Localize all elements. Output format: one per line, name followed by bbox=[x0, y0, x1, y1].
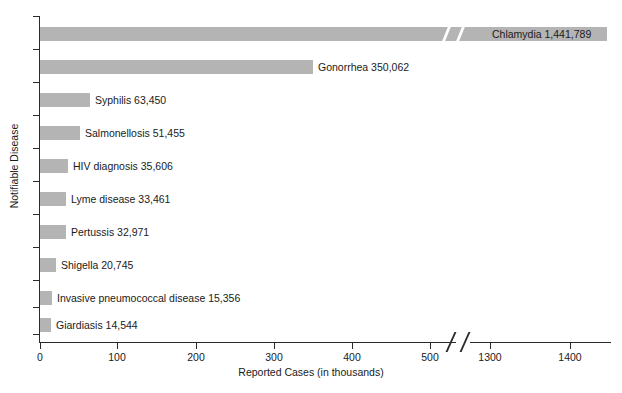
x-axis-line-right-segment bbox=[470, 342, 611, 343]
x-axis-tick bbox=[117, 343, 118, 349]
bar bbox=[40, 192, 66, 206]
bar bbox=[40, 93, 90, 107]
y-axis-tick bbox=[33, 16, 39, 17]
y-axis-tick bbox=[33, 247, 39, 248]
x-axis-tick-label: 100 bbox=[87, 351, 147, 363]
y-axis-tick bbox=[33, 280, 39, 281]
x-axis-tick-label: 1300 bbox=[460, 351, 520, 363]
x-axis-tick-label: 200 bbox=[166, 351, 226, 363]
y-axis-tick bbox=[33, 181, 39, 182]
x-axis-tick bbox=[274, 343, 275, 349]
bar bbox=[40, 291, 52, 305]
y-axis-tick bbox=[33, 82, 39, 83]
x-axis-break-slash-2 bbox=[460, 332, 471, 352]
bar-value-label: Syphilis 63,450 bbox=[95, 93, 166, 107]
y-axis-tick bbox=[33, 214, 39, 215]
x-axis-tick-label: 400 bbox=[322, 351, 382, 363]
bar-break-slash bbox=[442, 27, 451, 41]
x-axis-tick bbox=[196, 343, 197, 349]
x-axis-tick-label: 300 bbox=[244, 351, 304, 363]
y-axis-tick bbox=[33, 148, 39, 149]
x-axis-title: Reported Cases (in thousands) bbox=[0, 366, 622, 378]
y-axis-title: Notifiable Disease bbox=[8, 91, 20, 241]
y-axis-tick bbox=[33, 334, 39, 335]
x-axis-tick bbox=[430, 343, 431, 349]
bar-value-label: Pertussis 32,971 bbox=[71, 225, 149, 239]
bar bbox=[40, 159, 68, 173]
bar bbox=[40, 225, 66, 239]
y-axis-tick bbox=[33, 307, 39, 308]
bar-value-label: Lyme disease 33,461 bbox=[71, 192, 170, 206]
x-axis-tick-label: 0 bbox=[10, 351, 70, 363]
bar-value-label: Salmonellosis 51,455 bbox=[85, 126, 185, 140]
bar-value-label: HIV diagnosis 35,606 bbox=[73, 159, 173, 173]
y-axis-tick bbox=[33, 115, 39, 116]
y-axis-tick bbox=[33, 49, 39, 50]
x-axis-tick bbox=[570, 343, 571, 349]
bar-chart: 010020030040050013001400 Chlamydia 1,441… bbox=[0, 0, 622, 393]
bar-value-label: Giardiasis 14,544 bbox=[56, 318, 138, 332]
bar-value-label: Gonorrhea 350,062 bbox=[318, 60, 409, 74]
x-axis-tick-label: 500 bbox=[400, 351, 460, 363]
bar bbox=[40, 318, 51, 332]
bar-value-label: Invasive pneumococcal disease 15,356 bbox=[57, 291, 240, 305]
x-axis-line-left-segment bbox=[39, 342, 456, 343]
bar bbox=[40, 258, 56, 272]
bar bbox=[40, 60, 313, 74]
x-axis-tick bbox=[490, 343, 491, 349]
x-axis-tick-label: 1400 bbox=[540, 351, 600, 363]
bar-break-slash bbox=[456, 27, 465, 41]
x-axis-tick bbox=[40, 343, 41, 349]
bar bbox=[40, 126, 80, 140]
bar-value-label: Chlamydia 1,441,789 bbox=[492, 27, 591, 41]
x-axis-tick bbox=[352, 343, 353, 349]
bar-value-label: Shigella 20,745 bbox=[61, 258, 133, 272]
